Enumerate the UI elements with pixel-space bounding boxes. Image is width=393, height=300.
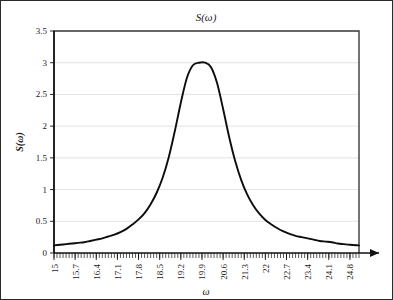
x-tick-label: 17.1 <box>113 264 123 280</box>
x-tick-label: 19.2 <box>176 264 186 280</box>
x-tick-label: 17.8 <box>134 264 144 280</box>
y-tick-label: 0.5 <box>36 216 48 226</box>
x-tick-label: 15.7 <box>71 264 81 280</box>
chart-figure: 00.511.522.533.5 1515.716.417.117.818.51… <box>0 0 393 300</box>
y-tick-label: 2 <box>43 121 48 131</box>
x-tick-label: 22 <box>261 264 271 273</box>
x-tick-label: 22.7 <box>282 264 292 280</box>
y-axis-title: S(ω) <box>14 132 26 151</box>
y-axis-ticks: 00.511.522.533.5 <box>36 26 54 258</box>
y-tick-label: 3.5 <box>36 26 48 36</box>
x-axis-arrow-icon <box>370 249 379 257</box>
x-tick-label: 23.4 <box>303 264 313 280</box>
y-tick-label: 1.5 <box>36 153 48 163</box>
y-tick-label: 3 <box>43 58 48 68</box>
spectral-density-chart: 00.511.522.533.5 1515.716.417.117.818.51… <box>1 1 393 300</box>
y-tick-label: 0 <box>43 248 48 258</box>
y-tick-label: 1 <box>43 185 48 195</box>
x-tick-label: 19.9 <box>197 264 207 280</box>
chart-title: S(ω) <box>196 11 217 24</box>
x-axis-ticks: 1515.716.417.117.818.519.219.920.621.322… <box>50 253 356 280</box>
x-tick-label: 15 <box>50 264 60 274</box>
x-tick-label: 21.3 <box>240 264 250 280</box>
x-tick-label: 24.1 <box>324 264 334 280</box>
y-tick-label: 2.5 <box>36 89 48 99</box>
x-tick-label: 16.4 <box>92 264 102 280</box>
x-tick-label: 20.6 <box>219 264 229 280</box>
x-axis-title: ω <box>202 286 209 297</box>
x-tick-label: 18.5 <box>155 264 165 280</box>
x-tick-label: 24.8 <box>345 264 355 280</box>
